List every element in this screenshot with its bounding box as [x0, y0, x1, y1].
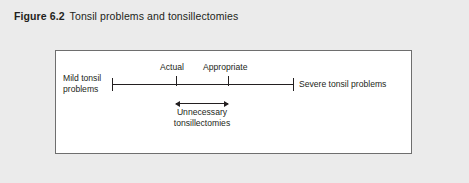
marker-label-appropriate: Appropriate: [203, 62, 247, 73]
annotation-label-unnecessary-tonsillectomies: Unnecessary tonsillectomies: [174, 107, 230, 128]
axis-segment-actual-to-appropriate: [176, 84, 228, 85]
axis-segment-mild-to-actual: [112, 84, 176, 85]
annotation-label-line-1: Unnecessary: [177, 107, 227, 117]
annotation-label-line-2: tonsillectomies: [174, 118, 230, 128]
axis-segment-appropriate-to-severe: [228, 84, 293, 85]
arrow-head-left-icon: [175, 101, 180, 107]
axis-endpoint-severe-tick: [293, 78, 294, 91]
marker-label-actual: Actual: [160, 62, 184, 73]
axis-label-severe-tonsil-problems: Severe tonsil problems: [299, 79, 386, 90]
figure-container: Figure 6.2Tonsil problems and tonsillect…: [0, 0, 469, 183]
unnecessary-range-arrow: [176, 100, 228, 107]
figure-caption: Figure 6.2Tonsil problems and tonsillect…: [14, 10, 238, 22]
axis-label-mild-tonsil-problems: Mild tonsil problems: [63, 73, 101, 94]
axis-label-mild-line-1: Mild tonsil: [63, 73, 101, 83]
figure-number: Figure 6.2: [14, 10, 65, 22]
arrow-head-right-icon: [224, 101, 229, 107]
figure-title: Tonsil problems and tonsillectomies: [70, 10, 239, 22]
arrow-shaft: [176, 103, 228, 104]
axis-label-mild-line-2: problems: [63, 84, 98, 94]
